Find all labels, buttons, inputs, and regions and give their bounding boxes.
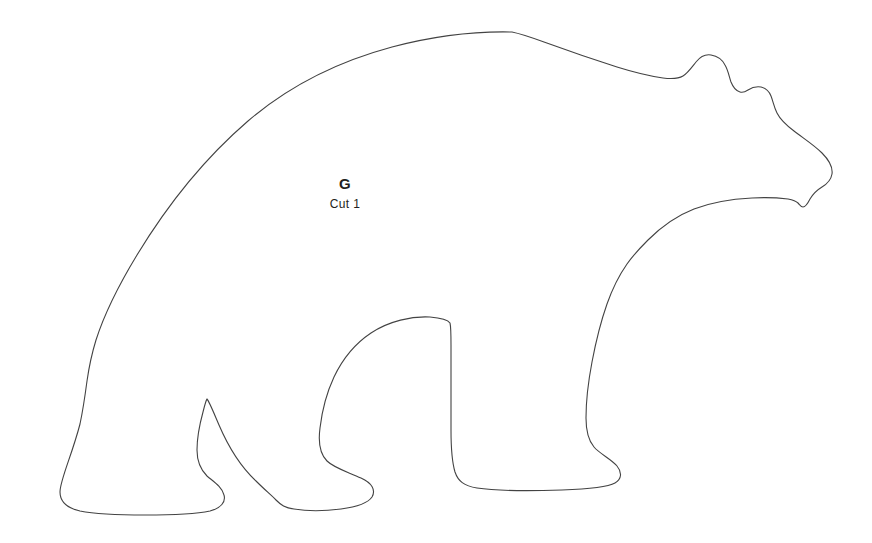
pattern-piece-svg [0,0,872,543]
bear-silhouette-outline [60,32,832,515]
pattern-sheet: G Cut 1 [0,0,872,543]
